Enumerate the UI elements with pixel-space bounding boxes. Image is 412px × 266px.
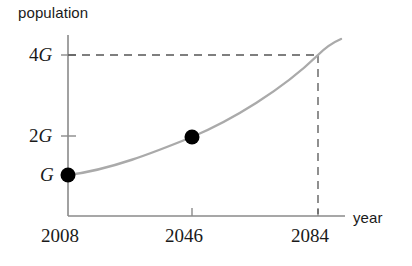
x-tick-label-2008: 2008 — [41, 225, 79, 247]
y-tick-label-4g: 4G — [29, 44, 52, 66]
y-tick-label-4g-prefix: 4 — [29, 44, 39, 65]
data-point-2008 — [61, 168, 76, 183]
x-tick-label-2084: 2084 — [291, 225, 329, 247]
y-tick-label-4g-unit: G — [39, 44, 53, 65]
y-tick-label-2g-unit: G — [39, 125, 53, 146]
y-tick-label-2g-prefix: 2 — [29, 125, 39, 146]
y-axis-title: population — [18, 4, 88, 21]
x-tick-label-2046: 2046 — [165, 225, 203, 247]
x-axis-title: year — [353, 209, 383, 226]
y-tick-label-g: G — [40, 164, 54, 186]
population-curve — [68, 39, 341, 175]
y-tick-label-2g: 2G — [29, 125, 52, 147]
population-growth-chart: population year 4G 2G G 2008 2046 2084 — [0, 0, 412, 266]
y-tick-label-g-unit: G — [40, 164, 54, 185]
data-point-2046 — [185, 130, 200, 145]
